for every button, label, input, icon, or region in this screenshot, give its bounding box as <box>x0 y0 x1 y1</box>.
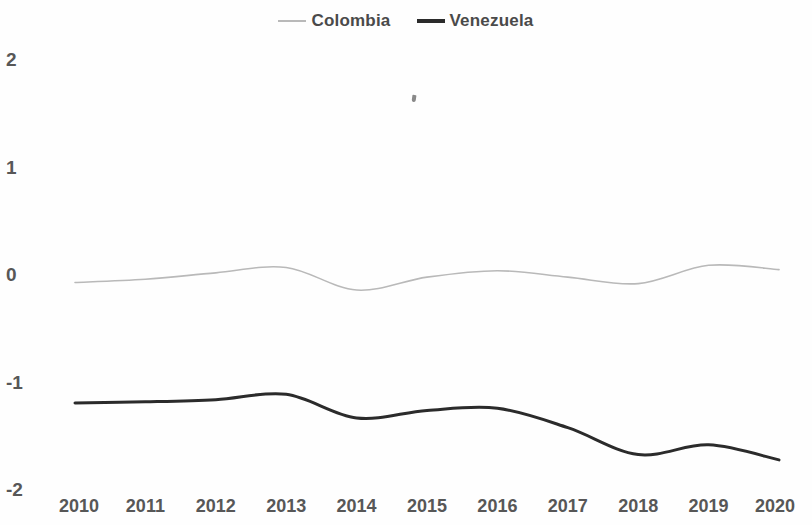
y-axis-tick-1: 1 <box>6 157 40 179</box>
series-line-colombia <box>75 265 779 290</box>
x-axis-tick-2012: 2012 <box>196 496 236 517</box>
x-axis-tick-2019: 2019 <box>689 496 729 517</box>
line-chart: Colombia Venezuela 210-1-2 2010201120122… <box>0 0 812 525</box>
y-axis-tick-2: 2 <box>6 49 40 71</box>
x-axis-tick-2016: 2016 <box>477 496 517 517</box>
x-axis-tick-2013: 2013 <box>266 496 306 517</box>
series-paths <box>75 265 779 460</box>
x-axis-tick-2020: 2020 <box>755 496 795 517</box>
y-axis-tick-0: 0 <box>6 264 40 286</box>
x-axis-tick-2014: 2014 <box>337 496 377 517</box>
plot-svg <box>0 0 812 525</box>
y-axis-tick-neg1: -1 <box>6 372 40 394</box>
x-axis-tick-2015: 2015 <box>407 496 447 517</box>
x-axis-tick-2018: 2018 <box>618 496 658 517</box>
y-axis-tick-neg2: -2 <box>6 479 40 501</box>
series-line-venezuela <box>75 394 779 460</box>
x-axis-tick-2011: 2011 <box>126 496 165 517</box>
plot-area: 210-1-2 20102011201220132014201520162017… <box>0 0 812 525</box>
x-axis-tick-2017: 2017 <box>548 496 588 517</box>
x-axis-tick-2010: 2010 <box>59 496 99 517</box>
